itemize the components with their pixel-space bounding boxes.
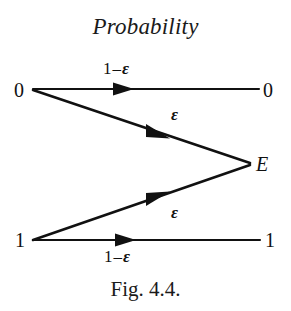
edge-label-top-epsilon: ε: [122, 59, 129, 78]
edge-label-bottom-epsilon: ε: [123, 247, 130, 266]
node-input-0: 0: [14, 80, 24, 100]
node-output-1: 1: [265, 230, 275, 250]
edge-top-0-to-0: [33, 83, 259, 96]
edge-label-upper-diagonal: ε: [171, 106, 178, 124]
node-output-erasure: E: [256, 154, 268, 174]
edge-label-bottom-minus: –: [113, 247, 124, 266]
figure-caption: Fig. 4.4.: [0, 277, 291, 301]
edge-bottom-1-to-1: [33, 234, 260, 247]
node-input-1: 1: [15, 230, 25, 250]
edge-label-top-number: 1: [103, 59, 112, 78]
edge-label-upper-diagonal-epsilon: ε: [171, 105, 178, 124]
edge-lower-diagonal-1-to-E: [33, 165, 250, 240]
edge-label-lower-diagonal-epsilon: ε: [171, 203, 178, 222]
edge-label-lower-diagonal: ε: [171, 204, 178, 222]
channel-edges-svg: [0, 0, 291, 311]
edge-label-bottom: 1–ε: [104, 248, 130, 266]
edge-label-top: 1–ε: [103, 60, 129, 78]
edge-label-top-minus: –: [112, 59, 123, 78]
edge-upper-diagonal-0-to-E: [33, 90, 250, 163]
figure-title: Probability: [0, 14, 291, 40]
edge-label-bottom-number: 1: [104, 247, 113, 266]
figure-binary-erasure-channel: Probability 0 1 0 E 1 1–ε ε ε: [0, 0, 291, 311]
node-output-0: 0: [263, 80, 273, 100]
